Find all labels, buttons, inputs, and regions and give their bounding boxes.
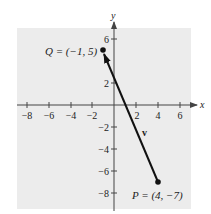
y-tick-label: 2 bbox=[104, 78, 109, 89]
y-tick-label: −6 bbox=[98, 166, 109, 177]
y-tick-label: 6 bbox=[104, 34, 109, 45]
point-q bbox=[100, 47, 106, 53]
y-tick-label: −2 bbox=[98, 122, 109, 133]
point-p-label: P = (4, −7) bbox=[131, 189, 183, 202]
vector-label: v bbox=[142, 127, 147, 138]
x-tick-label: −8 bbox=[22, 110, 33, 121]
point-q-label: Q = (−1, 5) bbox=[45, 45, 97, 58]
y-tick-label: −4 bbox=[98, 144, 109, 155]
y-axis-label: y bbox=[110, 10, 116, 21]
y-tick-label: −8 bbox=[98, 188, 109, 199]
x-tick-label: −2 bbox=[87, 110, 98, 121]
point-p bbox=[155, 179, 161, 185]
x-axis-label: x bbox=[199, 99, 205, 110]
x-tick-label: 2 bbox=[135, 110, 140, 121]
vector-diagram: −8 −6 −4 −2 2 4 6 6 2 −2 −4 −6 −8 x y v … bbox=[0, 0, 211, 214]
x-tick-label: −6 bbox=[44, 110, 55, 121]
x-tick-label: 4 bbox=[156, 110, 161, 121]
x-tick-label: 6 bbox=[178, 110, 183, 121]
x-tick-label: −4 bbox=[66, 110, 77, 121]
